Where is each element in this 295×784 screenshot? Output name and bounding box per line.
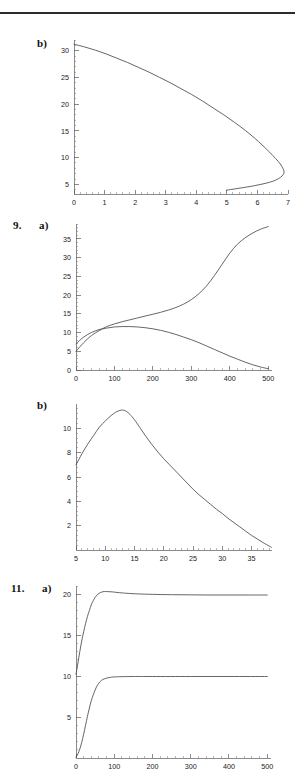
y-tick-label: 4 <box>67 497 71 506</box>
x-tick-label: 20 <box>160 554 168 563</box>
x-tick-label: 2 <box>133 198 137 207</box>
x-tick-label: 500 <box>261 762 273 771</box>
curve-peaking-decay <box>76 327 268 369</box>
x-tick-label: 0 <box>72 198 76 207</box>
x-tick-label: 0 <box>74 374 78 383</box>
y-tick-label: 15 <box>61 127 69 136</box>
y-tick-label: 15 <box>63 631 71 640</box>
curve-lower-saturating <box>76 676 267 757</box>
curve-skewed-peak <box>76 410 271 547</box>
y-tick-label: 10 <box>63 424 71 433</box>
x-tick-label: 25 <box>189 554 197 563</box>
x-tick-label: 1 <box>103 198 107 207</box>
chart-1: 010020030040050005101520253035 <box>0 212 295 392</box>
x-tick-label: 100 <box>108 374 120 383</box>
y-tick-label: 10 <box>63 328 71 337</box>
y-tick-label: 5 <box>67 713 71 722</box>
x-tick-label: 4 <box>194 198 198 207</box>
figure-block-2: b) 5101520253035246810 <box>0 392 295 572</box>
x-tick-label: 15 <box>131 554 139 563</box>
x-tick-label: 5 <box>74 554 78 563</box>
x-tick-label: 400 <box>223 762 235 771</box>
x-tick-label: 6 <box>255 198 259 207</box>
x-tick-label: 300 <box>185 374 197 383</box>
curve-rising-sigmoid <box>76 227 268 352</box>
chart-2: 5101520253035246810 <box>0 392 295 572</box>
y-tick-label: 5 <box>65 180 69 189</box>
x-tick-label: 35 <box>248 554 256 563</box>
x-tick-label: 200 <box>147 374 159 383</box>
x-tick-label: 300 <box>185 762 197 771</box>
y-tick-label: 20 <box>63 590 71 599</box>
figure-block-1: 9. a) 010020030040050005101520253035 <box>0 212 295 392</box>
y-tick-label: 20 <box>61 100 69 109</box>
figure-block-0: b) 0123456751015202530 <box>0 0 295 212</box>
y-tick-label: 25 <box>61 73 69 82</box>
chart-0: 0123456751015202530 <box>0 0 295 212</box>
x-tick-label: 10 <box>101 554 109 563</box>
x-tick-label: 500 <box>262 374 274 383</box>
x-tick-label: 30 <box>218 554 226 563</box>
y-tick-label: 10 <box>63 672 71 681</box>
x-tick-label: 7 <box>286 198 290 207</box>
figure-block-3: 11. a) 01002003004005005101520 <box>0 572 295 784</box>
y-tick-label: 2 <box>67 521 71 530</box>
y-tick-label: 30 <box>61 46 69 55</box>
x-tick-label: 0 <box>74 762 78 771</box>
y-tick-label: 20 <box>63 291 71 300</box>
x-tick-label: 200 <box>146 762 158 771</box>
y-tick-label: 15 <box>63 309 71 318</box>
curve-upper-overshoot <box>76 592 267 675</box>
x-tick-label: 400 <box>224 374 236 383</box>
chart-3: 01002003004005005101520 <box>0 572 295 784</box>
x-tick-label: 5 <box>225 198 229 207</box>
y-tick-label: 10 <box>61 153 69 162</box>
y-tick-label: 30 <box>63 253 71 262</box>
y-tick-label: 35 <box>63 235 71 244</box>
x-tick-label: 100 <box>108 762 120 771</box>
curve-phase-curve <box>74 44 284 190</box>
y-tick-label: 25 <box>63 272 71 281</box>
y-tick-label: 6 <box>67 473 71 482</box>
document-page: b) 0123456751015202530 9. a) 01002003004… <box>0 0 295 784</box>
y-tick-label: 8 <box>67 448 71 457</box>
y-tick-label: 5 <box>67 347 71 356</box>
x-tick-label: 3 <box>164 198 168 207</box>
y-tick-label: 0 <box>67 366 71 375</box>
